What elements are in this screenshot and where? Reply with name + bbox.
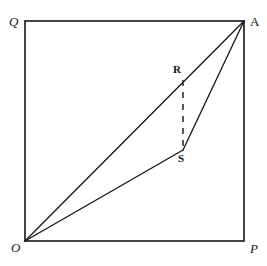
vertex-label-Q: Q: [9, 15, 18, 28]
vertex-label-S: S: [178, 153, 184, 164]
vertex-label-A: A: [250, 15, 259, 28]
segment-O-to-A: [25, 21, 244, 241]
vertex-label-O: O: [11, 241, 20, 254]
geometry-figure: Q A O P R S: [0, 0, 267, 266]
vertex-label-P: P: [250, 242, 258, 255]
vertex-label-R: R: [173, 64, 181, 75]
segment-O-to-S: [25, 150, 183, 241]
geometry-canvas: [0, 0, 267, 266]
segment-S-to-A: [183, 21, 244, 150]
